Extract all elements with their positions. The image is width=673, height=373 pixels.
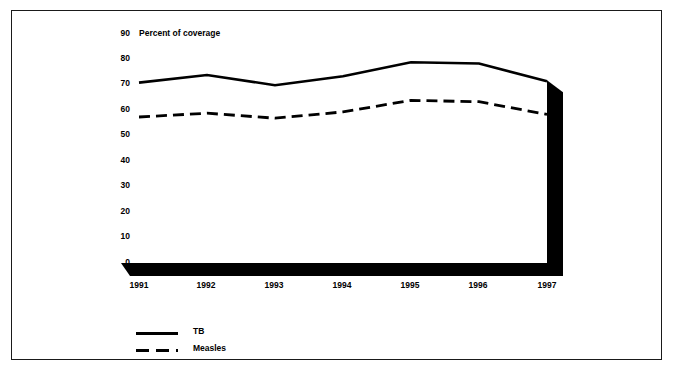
y-axis-tick-60: 60: [108, 105, 130, 114]
y-axis-tick-40: 40: [108, 156, 130, 165]
legend-item-tb: TB: [136, 326, 336, 343]
y-axis-tick-0: 0: [108, 258, 130, 267]
y-axis-tick-50: 50: [108, 130, 130, 139]
legend-swatch-dashed-icon: [136, 349, 178, 352]
series-line-tb: [139, 62, 547, 85]
chart-canvas: [0, 0, 673, 373]
legend-label-measles: Measles: [193, 343, 226, 353]
y-axis-tick-70: 70: [108, 79, 130, 88]
legend-label-tb: TB: [193, 326, 204, 336]
x-axis-tick-1995: 1995: [390, 281, 430, 290]
x-axis-tick-1994: 1994: [322, 281, 362, 290]
chart-plot-area: Percent of coverage 90 80 70 60 50 40 30…: [0, 0, 673, 373]
y-axis-tick-90: 90: [108, 29, 130, 38]
chart-legend: TB Measles: [136, 326, 336, 360]
x-axis-tick-1991: 1991: [119, 281, 159, 290]
x-axis-tick-1997: 1997: [527, 281, 567, 290]
x-axis-tick-1992: 1992: [186, 281, 226, 290]
y-axis-tick-20: 20: [108, 207, 130, 216]
chart-floor-slab: [121, 263, 563, 276]
y-axis-tick-10: 10: [108, 232, 130, 241]
legend-swatch-solid-icon: [136, 332, 178, 335]
x-axis-tick-1996: 1996: [458, 281, 498, 290]
chart-right-wall: [547, 80, 563, 276]
chart-title: Percent of coverage: [139, 28, 220, 38]
legend-item-measles: Measles: [136, 343, 336, 360]
y-axis-tick-80: 80: [108, 54, 130, 63]
y-axis-tick-30: 30: [108, 181, 130, 190]
figure: Percent of coverage 90 80 70 60 50 40 30…: [0, 0, 673, 373]
x-axis-tick-1993: 1993: [254, 281, 294, 290]
series-line-measles: [139, 100, 547, 118]
